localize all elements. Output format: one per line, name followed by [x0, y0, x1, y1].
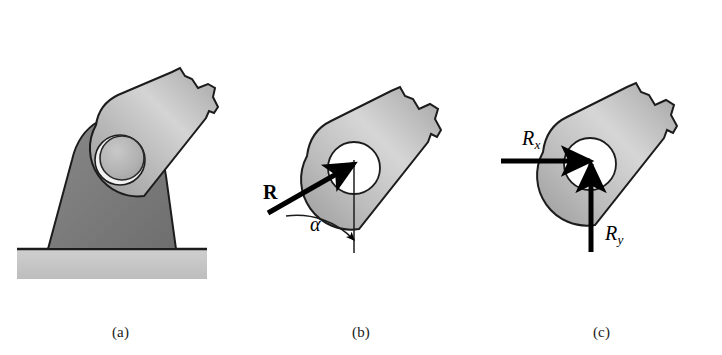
caption-c: (c) — [481, 324, 722, 341]
rx-label-base: R — [522, 127, 534, 149]
panel-a-drawing — [0, 0, 241, 320]
pin — [95, 135, 145, 185]
mechanics-figure: (a) — [0, 0, 722, 355]
ry-label: Ry — [605, 223, 623, 243]
angle-label: α — [310, 214, 321, 234]
panel-c: Rx Ry (c) — [481, 0, 722, 355]
caption-a: (a) — [0, 324, 241, 341]
rx-label-sub: x — [534, 137, 540, 152]
panel-b: R α (b) — [241, 0, 481, 355]
panel-a: (a) — [0, 0, 241, 355]
ry-label-base: R — [605, 222, 617, 244]
rx-label: Rx — [522, 128, 540, 148]
panel-b-drawing — [241, 0, 481, 320]
resultant-force-label: R — [263, 182, 277, 202]
ry-label-sub: y — [617, 232, 623, 247]
caption-b: (b) — [241, 324, 481, 341]
ground-slab — [17, 249, 207, 279]
panel-c-drawing — [481, 0, 722, 320]
